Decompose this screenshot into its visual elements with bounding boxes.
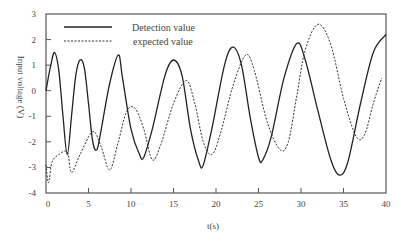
y-tick-label: -4 xyxy=(29,188,37,198)
x-tick-label: 5 xyxy=(86,199,91,209)
y-tick-label: -1 xyxy=(29,111,37,121)
axis-ticks: 05101520253035403210-1-2-3-4 xyxy=(29,9,392,209)
y-axis-label: Input voltage (V) xyxy=(16,56,26,118)
y-tick-label: 2 xyxy=(32,35,37,45)
x-tick-label: 35 xyxy=(339,199,349,209)
legend: Detection value expected value xyxy=(64,22,196,47)
x-tick-label: 20 xyxy=(212,199,222,209)
y-tick-label: 1 xyxy=(32,60,37,70)
x-tick-label: 25 xyxy=(254,199,264,209)
x-tick-label: 10 xyxy=(127,199,137,209)
series-expected-value xyxy=(46,24,382,183)
series-detection-value xyxy=(46,35,386,176)
series-lines xyxy=(46,24,386,183)
legend-label-detection: Detection value xyxy=(132,22,196,33)
y-tick-label: 3 xyxy=(32,9,37,19)
x-tick-label: 0 xyxy=(46,199,51,209)
x-tick-label: 15 xyxy=(169,199,179,209)
legend-label-expected: expected value xyxy=(133,36,193,47)
y-tick-label: -2 xyxy=(29,137,37,147)
x-axis-label: t(s) xyxy=(207,221,219,231)
y-tick-label: 0 xyxy=(32,86,37,96)
y-tick-label: -3 xyxy=(29,162,37,172)
x-tick-label: 30 xyxy=(297,199,307,209)
x-tick-label: 40 xyxy=(382,199,392,209)
line-chart: 05101520253035403210-1-2-3-4 Detection v… xyxy=(0,0,401,243)
